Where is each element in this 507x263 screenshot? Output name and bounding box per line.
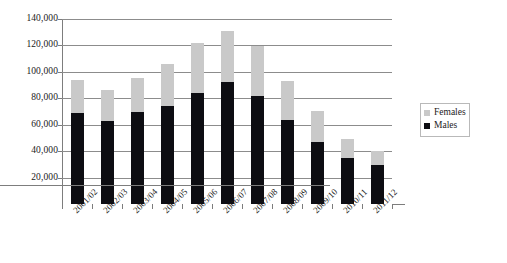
y-axis-tick xyxy=(58,98,62,99)
gridline xyxy=(62,19,392,20)
bar-segment-males xyxy=(131,112,144,205)
bar-segment-males xyxy=(71,113,84,204)
bar-group xyxy=(191,43,204,204)
bar-group xyxy=(341,139,354,204)
y-axis-tick xyxy=(58,72,62,73)
bar-segment-females xyxy=(251,46,264,96)
bar-segment-males xyxy=(251,96,264,204)
bar-segment-females xyxy=(341,139,354,158)
y-tick-label: 120,000 xyxy=(0,40,58,50)
bar-segment-females xyxy=(281,81,294,120)
bar-group xyxy=(161,64,174,204)
bar-segment-males xyxy=(101,121,114,204)
y-axis-tick xyxy=(58,45,62,46)
legend-item-females[interactable]: Females xyxy=(424,107,466,119)
bar-group xyxy=(311,111,324,204)
y-tick-label: 60,000 xyxy=(0,120,58,130)
y-axis-line xyxy=(62,19,63,204)
y-axis-tick xyxy=(58,19,62,20)
bar-group xyxy=(101,90,114,204)
bar-segment-males xyxy=(281,120,294,204)
bar-segment-females xyxy=(311,111,324,142)
y-axis-tick xyxy=(58,178,62,179)
bar-segment-males xyxy=(191,93,204,204)
legend-label: Females xyxy=(434,108,466,118)
bar-segment-females xyxy=(101,90,114,121)
plot-area xyxy=(62,19,392,204)
bar-segment-females xyxy=(131,78,144,112)
stacked-bar-chart: 140,000120,000100,00080,00060,00040,0002… xyxy=(0,0,507,263)
y-tick-label: 140,000 xyxy=(0,14,58,24)
x-axis-line xyxy=(0,185,330,186)
bar-segment-males xyxy=(311,142,324,204)
bar-segment-females xyxy=(71,80,84,113)
legend-swatch-males-icon xyxy=(424,123,430,129)
bar-group xyxy=(221,31,234,204)
bar-segment-females xyxy=(161,64,174,106)
y-tick-label: 80,000 xyxy=(0,93,58,103)
legend-label: Males xyxy=(434,121,457,131)
y-tick-label: 100,000 xyxy=(0,67,58,77)
legend-item-males[interactable]: Males xyxy=(424,120,466,132)
bar-segment-males xyxy=(161,106,174,204)
legend-swatch-females-icon xyxy=(424,110,430,116)
bar-segment-females xyxy=(371,151,384,165)
bar-segment-females xyxy=(221,31,234,83)
bar-group xyxy=(251,46,264,204)
y-axis-tick xyxy=(58,151,62,152)
y-axis-tick-labels: 140,000120,000100,00080,00060,00040,0002… xyxy=(0,19,58,204)
chart-legend: FemalesMales xyxy=(420,103,470,137)
x-axis-tick-labels: 2001/022002/032003/042004/052005/062006/… xyxy=(62,204,407,263)
y-axis-tick xyxy=(58,125,62,126)
bar-segment-females xyxy=(191,43,204,93)
y-tick-label: 40,000 xyxy=(0,146,58,156)
y-tick-label: 20,000 xyxy=(0,173,58,183)
